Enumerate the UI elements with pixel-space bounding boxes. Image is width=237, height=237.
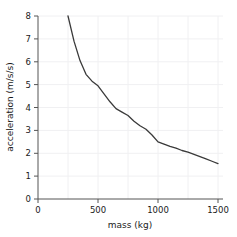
y-axis-title: acceleration (m/s/s) — [5, 62, 15, 152]
x-tick-label: 0 — [35, 205, 40, 215]
y-axis-tickmarks — [34, 16, 38, 199]
y-tick-label: 0 — [26, 194, 31, 204]
x-tick-label: 1500 — [207, 205, 229, 215]
y-tick-label: 6 — [26, 57, 31, 67]
x-axis-tickmarks — [38, 199, 218, 203]
y-tick-label: 5 — [26, 80, 31, 90]
y-tick-label: 7 — [26, 34, 31, 44]
x-tick-label: 1000 — [147, 205, 169, 215]
y-axis-tick-labels: 8 7 6 5 4 3 2 1 0 — [26, 11, 31, 204]
y-tick-label: 1 — [26, 171, 31, 181]
y-tick-label: 4 — [26, 103, 31, 113]
y-tick-label: 2 — [26, 148, 31, 158]
y-tick-label: 8 — [26, 11, 31, 21]
y-tick-label: 3 — [26, 125, 31, 135]
x-axis-tick-labels: 0 500 1000 1500 — [35, 205, 229, 215]
acceleration-vs-mass-chart: 8 7 6 5 4 3 2 1 0 0 500 1000 1500 mass (… — [0, 0, 237, 237]
x-tick-label: 500 — [90, 205, 106, 215]
chart-figure: 8 7 6 5 4 3 2 1 0 0 500 1000 1500 mass (… — [0, 0, 237, 237]
x-axis-title: mass (kg) — [108, 220, 152, 230]
